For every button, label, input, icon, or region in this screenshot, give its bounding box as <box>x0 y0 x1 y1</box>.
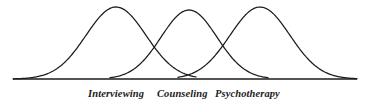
bell-curve-interviewing <box>13 7 196 79</box>
curve-label-psychotherapy: Psychotherapy <box>215 87 280 101</box>
curve-label-interviewing: Interviewing <box>88 87 144 101</box>
bell-curve-counseling <box>110 10 268 78</box>
curve-group <box>13 7 357 79</box>
curve-label-counseling: Counseling <box>157 87 208 101</box>
bell-curve-continuum-figure: Interviewing Counseling Psychotherapy <box>0 0 375 112</box>
bell-curve-psychotherapy <box>178 7 357 79</box>
curve-labels-row: Interviewing Counseling Psychotherapy <box>0 87 375 105</box>
